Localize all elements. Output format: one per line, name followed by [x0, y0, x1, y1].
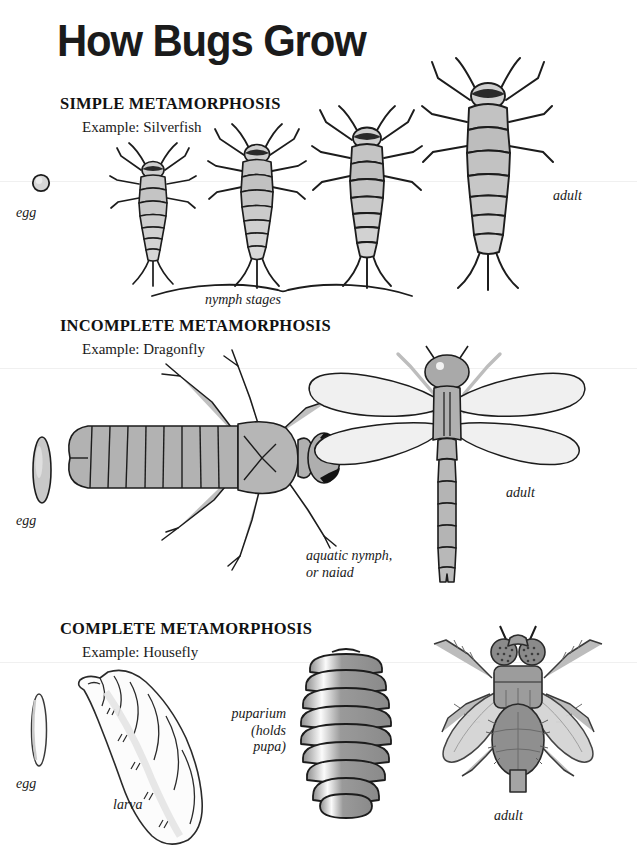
- section-example-simple: Example: Silverfish: [82, 119, 202, 136]
- label-egg-incomplete: egg: [16, 513, 36, 530]
- housefly-puparium: [286, 646, 406, 822]
- label-nymph-stages: nymph stages: [205, 292, 281, 309]
- housefly-egg-icon: [24, 688, 54, 772]
- label-adult-incomplete: adult: [506, 485, 535, 502]
- nymph-stages-brace: [150, 278, 414, 300]
- silverfish-adult: [420, 56, 554, 292]
- housefly-adult: [428, 620, 608, 810]
- silverfish-nymph-stage-3: [310, 104, 424, 290]
- section-heading-complete: COMPLETE METAMORPHOSIS: [60, 619, 312, 639]
- dragonfly-nymph-naiad: [62, 340, 342, 590]
- label-larva: larva: [113, 797, 143, 814]
- housefly-larva: [70, 664, 270, 851]
- poster-page: How Bugs Grow SIMPLE METAMORPHOSIS Examp…: [0, 0, 637, 851]
- dragonfly-adult: [306, 336, 586, 598]
- label-puparium: puparium (holds pupa): [222, 706, 286, 756]
- dragonfly-egg-icon: [26, 430, 58, 510]
- silverfish-nymph-stage-1: [105, 140, 201, 288]
- label-egg-complete: egg: [16, 776, 36, 793]
- silverfish-egg-icon: [28, 170, 56, 198]
- page-title: How Bugs Grow: [57, 18, 366, 63]
- section-example-complete: Example: Housefly: [82, 644, 198, 661]
- silverfish-nymph-stage-2: [205, 122, 309, 290]
- section-heading-simple: SIMPLE METAMORPHOSIS: [60, 94, 281, 114]
- label-egg-simple: egg: [16, 205, 36, 222]
- label-adult-complete: adult: [494, 808, 523, 825]
- section-heading-incomplete: INCOMPLETE METAMORPHOSIS: [60, 316, 331, 336]
- label-adult-simple: adult: [553, 188, 582, 205]
